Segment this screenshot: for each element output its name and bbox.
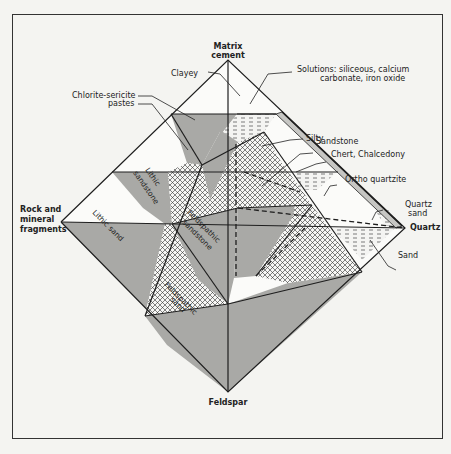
callout-sand: Sand (398, 251, 418, 260)
vertex-label-rock-3: fragments (20, 225, 67, 234)
vertex-label-rock-2: mineral (20, 215, 55, 224)
vertex-label-matrix: Matrix (213, 42, 243, 51)
tetrahedron-diagram: Matrix cement Rock and mineral fragments… (0, 0, 451, 454)
vertex-label-rock-1: Rock and (20, 205, 62, 214)
callout-solutions-1: Solutions: siliceous, calcium (297, 65, 410, 74)
vertex-label-feldspar: Feldspar (209, 398, 248, 407)
vertex-label-cement: cement (211, 51, 245, 60)
callout-quartz-sand-1: Quartz (405, 200, 432, 209)
callout-sandstone: Sandstone (316, 137, 358, 146)
callout-chert: Chert, Chalcedony (331, 150, 405, 159)
vertex-label-quartz: Quartz (410, 223, 441, 232)
callout-solutions-2: carbonate, iron oxide (320, 74, 405, 83)
callout-ortho-quartzite: Ortho quartzite (345, 175, 406, 184)
callout-quartz-sand-2: sand (408, 209, 427, 218)
callout-chlorite-2: pastes (108, 99, 134, 108)
callout-clayey: Clayey (171, 69, 198, 78)
